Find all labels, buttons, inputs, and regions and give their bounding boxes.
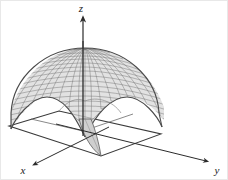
- surface-plot-canvas: z y x: [1, 1, 228, 180]
- y-axis-label: y: [214, 164, 220, 176]
- x-axis-label: x: [20, 164, 26, 176]
- surface-plot-figure: z y x: [0, 0, 228, 180]
- z-axis-label: z: [78, 2, 84, 14]
